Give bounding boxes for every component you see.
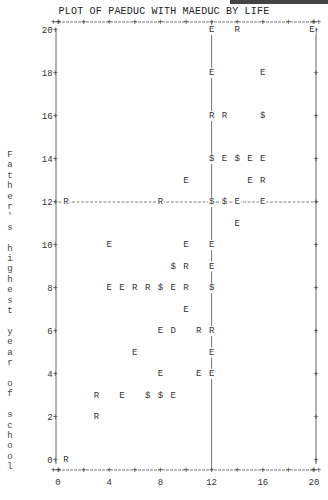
x-tick-bottom: + (286, 466, 291, 476)
data-point: E (132, 348, 137, 358)
data-point: R (132, 283, 138, 293)
x-tick-top: + (81, 18, 86, 28)
data-point: R (183, 262, 189, 272)
data-point: R (196, 326, 202, 336)
x-tick-bottom: + (106, 466, 111, 476)
data-point: $ (260, 111, 266, 121)
data-point: $ (145, 391, 151, 401)
data-point: $ (158, 283, 164, 293)
y-tick-right: + (313, 69, 318, 79)
y-tick-label: 16+ (42, 112, 58, 122)
corner: ++ (51, 18, 62, 28)
data-point: $ (222, 197, 228, 207)
y-tick-label: 4+ (47, 370, 58, 380)
x-tick-top: + (286, 18, 291, 28)
x-tick-top: + (260, 18, 265, 28)
data-point: E (170, 391, 175, 401)
data-point: R (183, 283, 189, 293)
x-tick-bottom: + (260, 466, 265, 476)
x-tick-top: + (106, 18, 111, 28)
y-tick-right: + (313, 155, 318, 165)
data-point: E (183, 176, 188, 186)
data-point: $ (234, 154, 240, 164)
data-point: E (260, 197, 265, 207)
data-point: E (260, 68, 265, 78)
data-point: $ (170, 262, 176, 272)
y-tick-right: + (313, 456, 318, 466)
x-tick-bottom: + (158, 466, 163, 476)
data-point: R (145, 283, 151, 293)
y-tick-right: + (313, 284, 318, 294)
x-tick-bottom: + (234, 466, 239, 476)
data-point: E (119, 391, 124, 401)
data-point: E (170, 283, 175, 293)
data-point: $ (209, 197, 215, 207)
y-tick-right: + (313, 327, 318, 337)
data-point: E (106, 240, 111, 250)
data-point: R (260, 176, 266, 186)
x-tick-bottom: + (132, 466, 137, 476)
y-tick-right: + (313, 241, 318, 251)
y-tick-label: 8+ (47, 284, 58, 294)
data-point: E (234, 197, 239, 207)
data-point: E (247, 176, 252, 186)
data-point: E (209, 262, 214, 272)
data-point: E (222, 154, 227, 164)
x-tick-top: + (183, 18, 188, 28)
data-point: E (119, 283, 124, 293)
data-point: E (209, 369, 214, 379)
data-point: E (209, 68, 214, 78)
data-point: E (260, 154, 265, 164)
x-tick-label: 4 (106, 478, 111, 488)
data-point: E (234, 219, 239, 229)
data-point: R (209, 326, 215, 336)
y-tick-label: 12+ (42, 198, 58, 208)
data-point: E (309, 25, 314, 35)
scatter-plot: ++++++++++++++++++++++0481216200++2++4++… (0, 0, 328, 500)
data-point: E (209, 348, 214, 358)
x-tick-bottom: + (183, 466, 188, 476)
x-tick-bottom: + (81, 466, 86, 476)
data-point: R (222, 111, 228, 121)
y-tick-label: 0+ (47, 456, 58, 466)
data-point: $ (158, 391, 164, 401)
data-point: E (196, 369, 201, 379)
data-point: R (234, 25, 240, 35)
x-tick-top: + (158, 18, 163, 28)
data-point: R (94, 412, 100, 422)
x-tick-label: 20 (309, 478, 320, 488)
x-tick-label: 16 (257, 478, 268, 488)
data-point: R (158, 197, 164, 207)
y-tick-label: 10+ (42, 241, 58, 251)
data-point: E (183, 305, 188, 315)
x-tick-label: 12 (206, 478, 217, 488)
y-tick-label: 18+ (42, 69, 58, 79)
y-tick-right: + (313, 413, 318, 423)
data-point: $ (209, 283, 215, 293)
x-tick-label: 8 (158, 478, 163, 488)
data-point: D (170, 326, 175, 336)
data-point: E (209, 240, 214, 250)
corner: ++ (311, 466, 322, 476)
data-point: E (209, 25, 214, 35)
x-tick-top: + (132, 18, 137, 28)
data-point: R (63, 455, 69, 465)
x-tick-bottom: + (209, 466, 214, 476)
data-point: E (247, 154, 252, 164)
data-point: R (94, 391, 100, 401)
y-tick-label: 14+ (42, 155, 58, 165)
y-tick-right: + (313, 112, 318, 122)
y-tick-right: + (313, 370, 318, 380)
y-tick-right: + (313, 198, 318, 208)
data-point: $ (209, 154, 215, 164)
data-point: E (183, 240, 188, 250)
y-tick-label: 6+ (47, 327, 58, 337)
corner: ++ (51, 466, 62, 476)
data-point: E (106, 283, 111, 293)
data-point: E (158, 369, 163, 379)
x-tick-label: 0 (55, 478, 60, 488)
data-point: R (63, 197, 69, 207)
data-point: E (158, 326, 163, 336)
y-tick-label: 2+ (47, 413, 58, 423)
data-point: R (209, 111, 215, 121)
